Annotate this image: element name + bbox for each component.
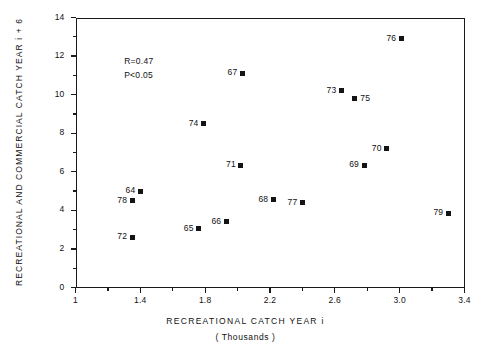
data-point-label: 75 (360, 93, 370, 103)
x-axis-tick-minor (107, 288, 108, 291)
data-point-marker (224, 219, 229, 224)
y-axis-tick-minor (73, 75, 76, 76)
x-axis-tick-minor (431, 288, 432, 291)
y-axis-tick-major (71, 17, 76, 18)
y-axis-tick-minor (73, 190, 76, 191)
data-point-label: 73 (320, 85, 336, 95)
y-axis-tick-label: 10 (42, 89, 65, 99)
y-axis-tick-major (71, 133, 76, 134)
x-axis-tick-major (464, 288, 465, 293)
x-axis-tick-minor (302, 288, 303, 291)
x-axis-tick-label: 1.4 (125, 295, 155, 305)
x-axis-tick-label: 3.4 (450, 295, 480, 305)
y-axis-tick-label: 2 (42, 243, 65, 253)
x-axis-tick-label: 2.6 (320, 295, 350, 305)
pvalue: P<0.05 (124, 68, 153, 82)
y-axis-tick-major (71, 94, 76, 95)
data-point-label: 67 (221, 67, 237, 77)
x-axis-title: RECREATIONAL CATCH YEAR i (0, 316, 491, 326)
x-axis-tick-major (334, 288, 335, 293)
x-axis-tick-major (205, 288, 206, 293)
x-axis-tick-minor (172, 288, 173, 291)
x-axis-tick-label: 1.8 (190, 295, 220, 305)
data-point-label: 77 (281, 197, 297, 207)
y-axis-tick-label: 4 (42, 204, 65, 214)
x-axis-tick-major (399, 288, 400, 293)
data-point-label: 78 (111, 195, 127, 205)
data-point-marker (240, 71, 245, 76)
y-axis-tick-label: 0 (42, 282, 65, 292)
data-point-marker (362, 163, 367, 168)
x-axis-tick-label: 1 (61, 295, 91, 305)
y-axis-tick-label: 8 (42, 127, 65, 137)
x-axis-tick-label: 2.2 (255, 295, 285, 305)
data-point-label: 64 (119, 185, 135, 195)
x-axis-tick-minor (237, 288, 238, 291)
data-point-marker (384, 146, 389, 151)
data-point-label: 72 (111, 231, 127, 241)
data-point-marker (271, 197, 276, 202)
y-axis-tick-minor (73, 152, 76, 153)
data-point-marker (196, 226, 201, 231)
scatter-plot-figure: 02468101214 11.41.82.22.63.03.4 76677375… (0, 0, 491, 346)
y-axis-tick-major (71, 171, 76, 172)
x-axis-tick-minor (367, 288, 368, 291)
x-axis-tick-major (140, 288, 141, 293)
data-point-marker (138, 189, 143, 194)
x-axis-subtitle: ( Thousands ) (0, 332, 491, 342)
data-point-label: 66 (205, 216, 221, 226)
data-point-marker (300, 200, 305, 205)
data-point-label: 70 (366, 143, 382, 153)
y-axis-tick-major (71, 248, 76, 249)
x-axis-tick-label: 3.0 (385, 295, 415, 305)
data-point-label: 76 (380, 33, 396, 43)
data-point-marker (201, 121, 206, 126)
y-axis-tick-minor (73, 268, 76, 269)
data-point-marker (446, 211, 451, 216)
data-point-marker (352, 96, 357, 101)
y-axis-tick-minor (73, 36, 76, 37)
data-point-label: 79 (427, 207, 443, 217)
data-point-label: 65 (178, 223, 194, 233)
y-axis-tick-label: 6 (42, 166, 65, 176)
y-axis-title: RECREATIONAL AND COMMERCIAL CATCH YEAR i… (14, 17, 24, 285)
data-point-label: 74 (183, 118, 199, 128)
data-point-marker (130, 235, 135, 240)
data-point-marker (130, 198, 135, 203)
y-axis-tick-minor (73, 229, 76, 230)
correlation-value: R=0.47 (124, 54, 153, 68)
y-axis-tick-major (71, 55, 76, 56)
x-axis-tick-major (269, 288, 270, 293)
data-point-marker (399, 36, 404, 41)
y-axis-tick-major (71, 210, 76, 211)
data-point-label: 69 (343, 159, 359, 169)
data-point-label: 71 (220, 159, 236, 169)
y-axis-tick-label: 14 (42, 12, 65, 22)
data-point-label: 68 (252, 194, 268, 204)
data-point-marker (238, 163, 243, 168)
stats-annotation: R=0.47 P<0.05 (124, 54, 153, 82)
data-point-marker (339, 88, 344, 93)
y-axis-tick-minor (73, 113, 76, 114)
x-axis-tick-major (75, 288, 76, 293)
y-axis-tick-label: 12 (42, 50, 65, 60)
